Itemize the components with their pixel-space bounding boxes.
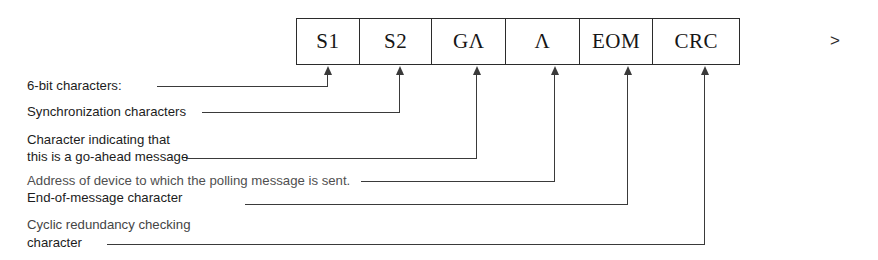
leader-h-end-of-message [245, 204, 628, 205]
leader-h-synchronization-characters [202, 112, 400, 113]
label-crc-line2: character [27, 234, 82, 252]
arrowhead-s2 [396, 66, 404, 75]
message-frame: S1 S2 GΛ Λ EOM CRC [296, 18, 740, 65]
arrowhead-s1 [324, 66, 332, 75]
leader-h-six-bit-characters [157, 86, 328, 87]
arrowhead-crc [701, 66, 709, 75]
leader-h-go-ahead [186, 158, 477, 159]
leader-v-go-ahead [476, 72, 477, 158]
leader-v-synchronization-characters [399, 72, 400, 112]
cell-eom: EOM [580, 19, 654, 64]
label-go-ahead-line1: Character indicating that [27, 131, 170, 149]
label-crc-line1: Cyclic redundancy checking [27, 216, 190, 234]
label-six-bit-characters: 6-bit characters: [27, 77, 122, 95]
leader-v-crc [704, 72, 705, 244]
label-synchronization-characters: Synchronization characters [27, 103, 186, 121]
polling-message-format-diagram: S1 S2 GΛ Λ EOM CRC > 6-bit characters: S… [0, 0, 878, 260]
cell-s2: S2 [360, 19, 433, 64]
arrowhead-a [551, 66, 559, 75]
cell-a: Λ [506, 19, 580, 64]
label-address-of-device: Address of device to which the polling m… [27, 172, 350, 190]
arrowhead-eom [624, 66, 632, 75]
leader-h-address-of-device [361, 181, 555, 182]
leader-h-crc [107, 244, 705, 245]
leader-v-address-of-device [554, 72, 555, 181]
cell-s1: S1 [297, 19, 360, 64]
leader-v-end-of-message [627, 72, 628, 204]
arrowhead-ga [473, 66, 481, 75]
cell-crc: CRC [653, 19, 739, 64]
label-go-ahead-line2: this is a go-ahead message [27, 148, 188, 166]
continuation-marker: > [830, 31, 840, 51]
cell-ga: GΛ [432, 19, 506, 64]
label-end-of-message-character: End-of-message character [27, 189, 182, 207]
